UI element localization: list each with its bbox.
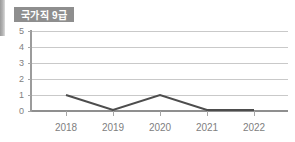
y-label-4: 4: [19, 42, 24, 52]
y-axis-labels: 5 4 3 2 1 0: [19, 26, 24, 116]
x-label-2021: 2021: [196, 122, 219, 133]
chart-title-badge: 국가직 9급: [14, 7, 74, 22]
x-tick-marks: [66, 111, 254, 116]
y-label-5: 5: [19, 26, 24, 36]
x-label-2022: 2022: [243, 122, 266, 133]
y-label-3: 3: [19, 58, 24, 68]
x-label-2018: 2018: [55, 122, 78, 133]
gridlines: [31, 31, 288, 95]
x-label-2019: 2019: [102, 122, 125, 133]
chart-svg: 5 4 3 2 1 0 2018 2019 2020 2021 2022: [0, 26, 295, 142]
y-label-0: 0: [19, 106, 24, 116]
y-label-2: 2: [19, 74, 24, 84]
x-label-2020: 2020: [149, 122, 172, 133]
x-axis-labels: 2018 2019 2020 2021 2022: [55, 122, 266, 133]
line-chart: 5 4 3 2 1 0 2018 2019 2020 2021 2022: [0, 26, 295, 142]
series-line-national-grade9: [66, 95, 254, 110]
chart-title-text: 국가직 9급: [21, 7, 67, 22]
y-label-1: 1: [19, 90, 24, 100]
